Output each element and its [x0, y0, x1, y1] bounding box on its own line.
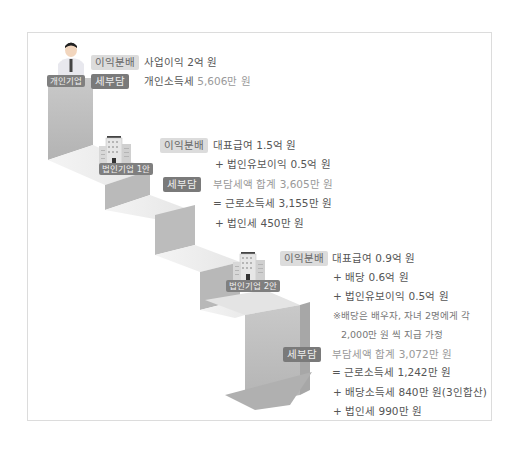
person-icon: [54, 42, 88, 76]
profit-line: 대표급여 1.5억 원: [213, 138, 296, 152]
profit-line: + 배당 0.6억 원: [333, 270, 409, 284]
building-icon: [98, 134, 132, 166]
tax-line: = 근로소득세 1,242만 원: [332, 365, 451, 379]
tax-line: 개인소득세 5,606만 원: [144, 74, 251, 88]
tax-total-line: 부담세액 합계 3,072만 원: [332, 347, 452, 361]
assumption-note: 2,000만 원 씩 지급 가정: [341, 328, 443, 342]
building-icon: [232, 250, 266, 282]
tax-burden-badge: 세부담: [163, 177, 201, 192]
profit-distribution-badge: 이익분배: [160, 138, 208, 153]
tax-burden-badge: 세부담: [283, 347, 321, 362]
profit-line: 대표급여 0.9억 원: [332, 251, 415, 265]
tax-line-label: 개인소득세: [144, 75, 197, 87]
profit-line: + 법인유보이익 0.5억 원: [215, 157, 331, 171]
tax-burden-badge: 세부담: [91, 74, 129, 89]
entity-label: 개인기업: [47, 75, 85, 87]
entity-label: 법인기업 2안: [226, 280, 280, 292]
profit-distribution-badge: 이익분배: [91, 55, 139, 70]
profit-distribution-badge: 이익분배: [280, 251, 328, 266]
profit-line: 사업이익 2억 원: [144, 55, 217, 69]
tax-line: + 배당소득세 840만 원(3인합산): [333, 385, 487, 399]
tax-line-value: 5,606만 원: [197, 75, 250, 87]
entity-label: 법인기업 1안: [99, 163, 153, 175]
tax-line: = 근로소득세 3,155만 원: [213, 196, 332, 210]
assumption-note: ※배당은 배우자, 자녀 2명에게 각: [333, 309, 470, 323]
tax-total-line: 부담세액 합계 3,605만 원: [213, 177, 333, 191]
tax-line: + 법인세 450만 원: [215, 216, 304, 230]
profit-line: + 법인유보이익 0.5억 원: [333, 289, 449, 303]
tax-line: + 법인세 990만 원: [333, 404, 422, 418]
